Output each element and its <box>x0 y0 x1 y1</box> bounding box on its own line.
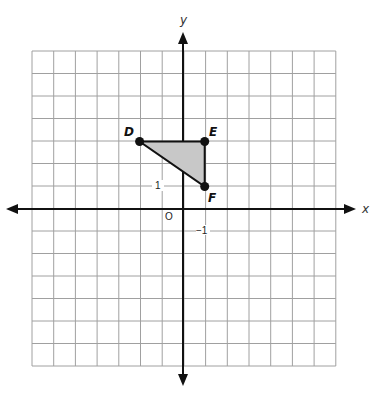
y-axis-down-arrow-icon <box>178 374 188 386</box>
point-d-label: D <box>124 125 134 139</box>
y-axis-label: y <box>179 13 188 27</box>
x-axis <box>6 204 356 214</box>
y-tick-label-1: 1 <box>155 180 161 191</box>
triangle-def: D E F <box>124 125 218 205</box>
origin-label: O <box>165 211 173 222</box>
x-axis-label: x <box>361 202 370 216</box>
y-tick-label-neg-1: −1 <box>196 225 208 236</box>
x-axis-right-arrow-icon <box>344 204 356 214</box>
coordinate-plane: y x O 1 −1 D E F <box>0 0 378 398</box>
point-f <box>200 182 209 191</box>
point-e <box>200 137 209 146</box>
point-f-label: F <box>208 191 217 205</box>
y-axis-up-arrow-icon <box>178 32 188 44</box>
x-axis-left-arrow-icon <box>6 204 18 214</box>
point-e-label: E <box>209 125 218 139</box>
point-d <box>135 137 144 146</box>
